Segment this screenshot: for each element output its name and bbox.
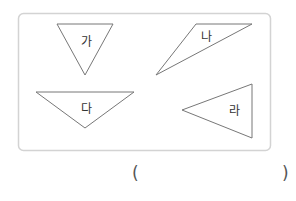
answer-blank[interactable] (142, 163, 278, 187)
triangle-ga-label: 가 (81, 35, 92, 49)
answer-open-paren: ( (132, 163, 139, 183)
triangle-da-label: 다 (81, 102, 92, 116)
triangle-ra-label: 라 (229, 104, 240, 118)
triangle-na-label: 나 (201, 30, 212, 44)
answer-close-paren: ) (282, 163, 289, 183)
